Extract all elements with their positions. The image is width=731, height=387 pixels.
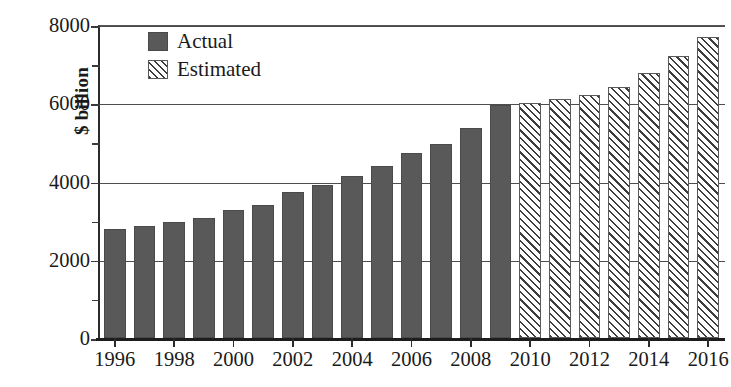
y-axis-tick-label: 8000 (0, 15, 90, 36)
x-axis-tick (589, 338, 591, 347)
x-axis-tick (470, 338, 472, 347)
y-axis-tick-label: 0 (0, 328, 90, 349)
bar-2004 (341, 176, 362, 338)
bar-2005 (371, 166, 392, 338)
bar-1999 (193, 218, 214, 338)
y-axis-tick-label: 4000 (0, 172, 90, 193)
x-axis-tick-label: 2016 (688, 348, 729, 371)
bar-2013 (608, 87, 629, 338)
y-axis-major-tick (91, 104, 100, 106)
bar-2016 (697, 37, 718, 338)
legend-item-actual: Actual (148, 31, 261, 52)
legend: ActualEstimated (148, 31, 261, 80)
x-axis-tick-label: 2010 (510, 348, 551, 371)
legend-swatch-estimated (148, 60, 168, 79)
y-axis-minor-tick (92, 143, 100, 145)
bar-1996 (104, 229, 125, 338)
y-axis-major-tick (91, 261, 100, 263)
bar-2009 (490, 105, 511, 338)
x-axis-tick (173, 338, 175, 347)
bar-2014 (638, 73, 659, 338)
x-axis-tick-label: 2014 (628, 348, 669, 371)
y-axis-minor-tick (92, 65, 100, 67)
y-axis-minor-tick (92, 300, 100, 302)
bar-2000 (223, 210, 244, 338)
legend-label: Actual (177, 31, 233, 52)
bar-2008 (460, 128, 481, 338)
y-axis-major-tick (91, 26, 100, 28)
bar-2001 (252, 205, 273, 338)
x-axis-tick (411, 338, 413, 347)
bar-2002 (282, 192, 303, 338)
x-axis-tick-label: 2002 (272, 348, 313, 371)
y-axis-major-tick (91, 183, 100, 185)
x-axis-tick-label: 2008 (450, 348, 491, 371)
y-axis-minor-tick (92, 222, 100, 224)
bar-2006 (401, 153, 422, 338)
bar-chart: $ billion 02000400060008000 199619982000… (0, 0, 731, 387)
bar-2015 (668, 56, 689, 338)
x-axis-tick-label: 2012 (569, 348, 610, 371)
legend-label: Estimated (177, 59, 261, 80)
bar-2012 (579, 95, 600, 338)
legend-swatch-actual (148, 32, 168, 51)
x-axis-tick-label: 1996 (94, 348, 135, 371)
bar-2007 (430, 144, 451, 338)
bar-2003 (312, 185, 333, 338)
x-axis-tick (351, 338, 353, 347)
x-axis-tick (114, 338, 116, 347)
x-axis-tick (233, 338, 235, 347)
bar-2010 (519, 103, 540, 338)
legend-item-estimated: Estimated (148, 59, 261, 80)
x-axis-tick-label: 2006 (391, 348, 432, 371)
x-axis-tick (529, 338, 531, 347)
x-axis-tick (648, 338, 650, 347)
y-axis-tick-label: 2000 (0, 250, 90, 271)
bar-1998 (163, 222, 184, 338)
y-axis-tick-label: 6000 (0, 93, 90, 114)
x-axis-tick (292, 338, 294, 347)
x-axis-tick-label: 1998 (154, 348, 195, 371)
x-axis-tick-label: 2000 (213, 348, 254, 371)
x-axis-tick-label: 2004 (332, 348, 373, 371)
x-axis-tick (707, 338, 709, 347)
bar-1997 (134, 226, 155, 338)
bar-2011 (549, 99, 570, 338)
